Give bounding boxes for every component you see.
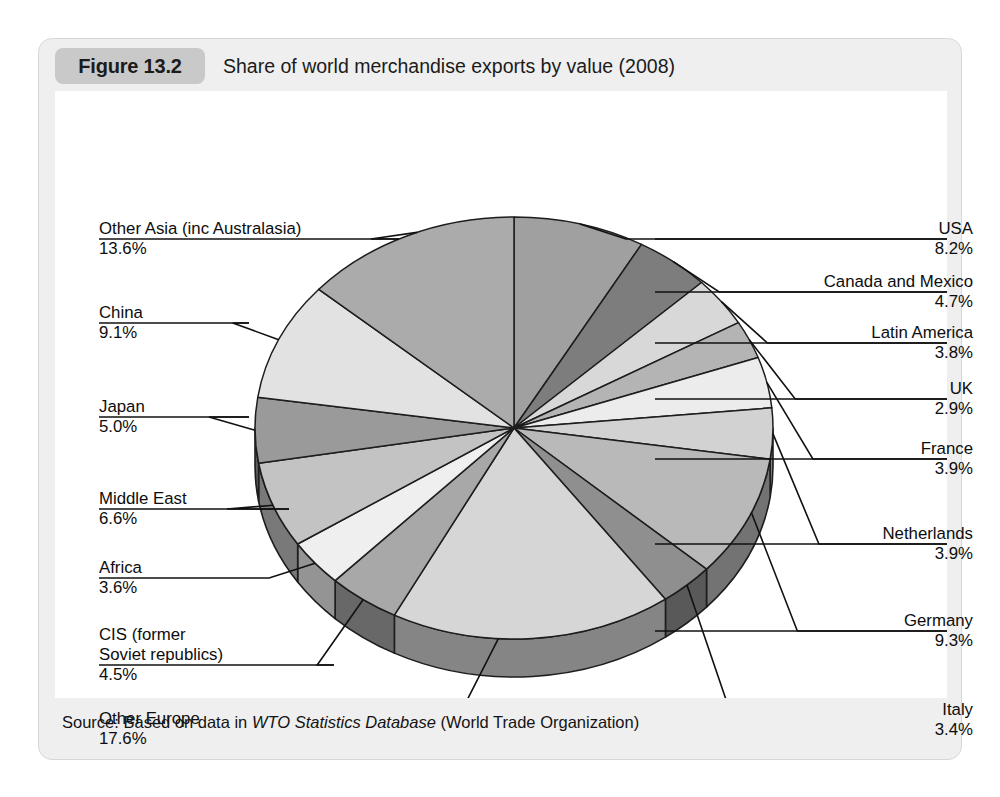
callout-usa-name: USA xyxy=(655,219,973,239)
callout-netherlands: Netherlands 3.9% xyxy=(655,524,973,564)
callout-other-asia-name: Other Asia (inc Australasia) xyxy=(99,219,301,239)
callout-japan-name: Japan xyxy=(99,397,145,417)
callout-china-value: 9.1% xyxy=(99,323,143,343)
callout-canada-mexico-name: Canada and Mexico xyxy=(655,272,973,292)
figure-title: Share of world merchandise exports by va… xyxy=(223,48,675,84)
callout-other-asia-value: 13.6% xyxy=(99,239,301,259)
callout-cis-name2: Soviet republics) xyxy=(99,645,223,665)
callout-cis: CIS (former Soviet republics) 4.5% xyxy=(99,625,223,685)
callout-middle-east-value: 6.6% xyxy=(99,509,187,529)
callout-other-asia: Other Asia (inc Australasia) 13.6% xyxy=(99,219,301,259)
source-prefix: Source: Based on data in xyxy=(62,713,252,731)
source-bar: Source: Based on data in WTO Statistics … xyxy=(55,698,947,747)
callout-netherlands-name: Netherlands xyxy=(655,524,973,544)
callout-cis-name: CIS (former xyxy=(99,625,223,645)
chart-area: USA 8.2% Canada and Mexico 4.7% Latin Am… xyxy=(55,91,947,698)
callout-netherlands-value: 3.9% xyxy=(655,544,973,564)
callout-china-name: China xyxy=(99,303,143,323)
callout-middle-east: Middle East 6.6% xyxy=(99,489,187,529)
figure-number-label: Figure 13.2 xyxy=(55,48,205,84)
callout-usa: USA 8.2% xyxy=(655,219,973,259)
callout-latin-america-name: Latin America xyxy=(655,323,973,343)
callout-cis-value: 4.5% xyxy=(99,665,223,685)
callout-africa-name: Africa xyxy=(99,558,142,578)
callout-usa-value: 8.2% xyxy=(655,239,973,259)
callout-uk-value: 2.9% xyxy=(655,399,973,419)
figure-header: Figure 13.2 Share of world merchandise e… xyxy=(39,39,961,91)
callout-uk-name: UK xyxy=(655,379,973,399)
callout-germany-value: 9.3% xyxy=(655,631,973,651)
source-note: Source: Based on data in WTO Statistics … xyxy=(62,698,639,747)
callout-france: France 3.9% xyxy=(655,439,973,479)
callout-japan: Japan 5.0% xyxy=(99,397,145,437)
callout-uk: UK 2.9% xyxy=(655,379,973,419)
callout-latin-america-value: 3.8% xyxy=(655,343,973,363)
source-italic: WTO Statistics Database xyxy=(252,713,436,731)
callout-africa-value: 3.6% xyxy=(99,578,142,598)
figure-panel: Figure 13.2 Share of world merchandise e… xyxy=(38,38,962,760)
callout-canada-mexico-value: 4.7% xyxy=(655,292,973,312)
callout-latin-america: Latin America 3.8% xyxy=(655,323,973,363)
callout-france-name: France xyxy=(655,439,973,459)
callout-france-value: 3.9% xyxy=(655,459,973,479)
callout-canada-mexico: Canada and Mexico 4.7% xyxy=(655,272,973,312)
callout-africa: Africa 3.6% xyxy=(99,558,142,598)
source-suffix: (World Trade Organization) xyxy=(436,713,639,731)
figure-number-badge: Figure 13.2 xyxy=(55,48,205,84)
callout-china: China 9.1% xyxy=(99,303,143,343)
callout-japan-value: 5.0% xyxy=(99,417,145,437)
callout-middle-east-name: Middle East xyxy=(99,489,187,509)
callout-germany-name: Germany xyxy=(655,611,973,631)
callout-germany: Germany 9.3% xyxy=(655,611,973,651)
